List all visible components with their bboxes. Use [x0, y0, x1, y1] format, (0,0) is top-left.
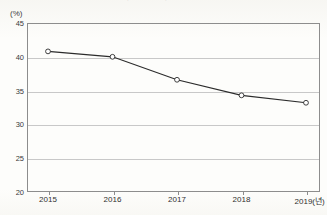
- cropped-title-strip: ᅳ ᅳ ᄀ ᄀ ᅡ ᄀ ᅡ: [0, 0, 327, 9]
- y-axis-tick-label: 45: [6, 19, 24, 28]
- chart-screenshot: ᅳ ᅳ ᄀ ᄀ ᅡ ᄀ ᅡ (%) 454035302520 201520162…: [0, 0, 327, 215]
- y-axis-tick-label: 35: [6, 87, 24, 96]
- y-axis-tick-label: 30: [6, 120, 24, 129]
- x-axis-tick-labels: 20152016201720182019(년): [27, 195, 320, 211]
- y-axis-unit-label: (%): [10, 9, 22, 18]
- y-axis-tick-labels: 454035302520: [0, 23, 27, 192]
- data-point-marker: [175, 77, 180, 82]
- x-axis-tick-label: 2018: [233, 195, 251, 204]
- y-axis-tick-label: 20: [6, 188, 24, 197]
- x-axis-tick-label: 2017: [168, 195, 186, 204]
- line-series: [27, 23, 320, 192]
- cropped-title-text: ᅳ ᅳ ᄀ ᄀ ᅡ ᄀ ᅡ: [44, 0, 171, 7]
- x-axis-tick-label: 2019(년): [295, 195, 325, 206]
- x-axis-tick-label: 2015: [39, 195, 57, 204]
- data-point-marker: [110, 54, 115, 59]
- y-axis-tick-label: 40: [6, 53, 24, 62]
- x-axis-tick-label: 2016: [104, 195, 122, 204]
- data-point-marker: [239, 93, 244, 98]
- data-point-marker: [46, 49, 51, 54]
- data-point-marker: [304, 100, 309, 105]
- y-axis-tick-label: 25: [6, 154, 24, 163]
